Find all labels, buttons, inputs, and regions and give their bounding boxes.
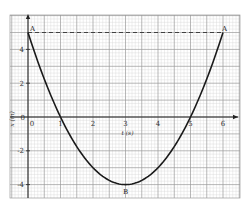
x-tick-label: 0 bbox=[30, 120, 34, 128]
y-tick-label: -2 bbox=[17, 147, 24, 155]
x-tick-label: 3 bbox=[123, 120, 127, 128]
point-a-right-label: A bbox=[221, 25, 228, 33]
y-tick-label: 0 bbox=[21, 114, 25, 122]
y-tick-label: 4 bbox=[20, 46, 25, 54]
x-tick-label: 2 bbox=[91, 120, 95, 128]
y-tick-label: -4 bbox=[17, 181, 24, 189]
point-b-label: B bbox=[123, 188, 128, 196]
y-tick-label: 2 bbox=[20, 80, 24, 88]
x-axis-label: t (s) bbox=[121, 129, 134, 136]
x-tick-label: 4 bbox=[156, 120, 161, 128]
y-axis-label: x (m) bbox=[8, 111, 15, 127]
x-tick-label: 6 bbox=[221, 120, 226, 128]
position-time-chart: 0123456-4-2024 A A B t (s) x (m) bbox=[0, 0, 247, 209]
point-a-left-label: A bbox=[29, 25, 36, 33]
